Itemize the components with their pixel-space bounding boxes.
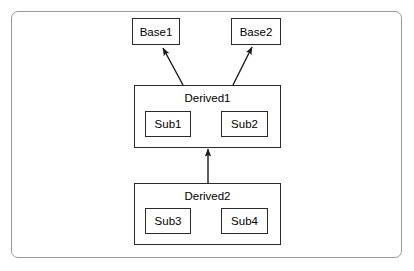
base-class-base1[interactable]: Base1 (132, 18, 180, 45)
member-class-sub4[interactable]: Sub4 (221, 208, 268, 234)
base-class-label: Base2 (232, 25, 280, 38)
derived-class-title: Derived1 (135, 91, 280, 105)
member-class-label: Sub3 (146, 215, 190, 228)
member-class-label: Sub1 (146, 118, 190, 131)
member-class-sub3[interactable]: Sub3 (145, 208, 191, 234)
diagram-canvas: Base1Base2Derived1Sub1Sub2Derived2Sub3Su… (0, 0, 414, 271)
derived-class-title: Derived2 (135, 189, 280, 203)
member-class-sub1[interactable]: Sub1 (145, 111, 191, 137)
member-class-sub2[interactable]: Sub2 (221, 111, 268, 137)
member-class-label: Sub2 (222, 118, 267, 131)
member-class-label: Sub4 (222, 215, 267, 228)
base-class-base2[interactable]: Base2 (231, 18, 281, 45)
base-class-label: Base1 (133, 25, 179, 38)
